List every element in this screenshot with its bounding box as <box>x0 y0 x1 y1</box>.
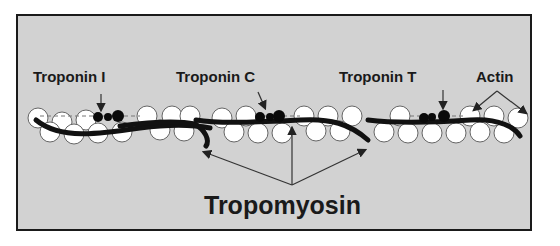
label-troponin-i: Troponin I <box>33 68 106 85</box>
troponin-c-arrow <box>258 92 265 108</box>
tropomyosin-arrow-right <box>292 150 365 185</box>
label-troponin-c: Troponin C <box>176 68 255 85</box>
label-actin: Actin <box>476 68 514 85</box>
tropomyosin-arrow-left <box>204 152 292 185</box>
label-tropomyosin: Tropomyosin <box>204 191 361 220</box>
label-troponin-t: Troponin T <box>339 68 416 85</box>
